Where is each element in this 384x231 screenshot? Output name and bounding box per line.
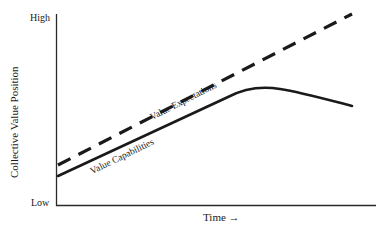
y-tick-high: High <box>30 12 50 23</box>
y-tick-low: Low <box>31 197 49 208</box>
y-axis-title: Collective Value Position <box>8 66 20 178</box>
chart-canvas <box>0 0 384 231</box>
x-axis-title: Time → <box>203 211 240 223</box>
